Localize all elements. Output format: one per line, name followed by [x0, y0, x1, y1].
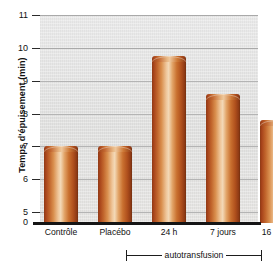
- bar-cap: [152, 56, 186, 62]
- y-tick-mark-5: [32, 212, 40, 213]
- bracket-label: autotransfusion: [162, 250, 227, 260]
- bar-cap: [44, 146, 78, 152]
- bar-chart-figure: Temps d'épuisement (min) 11 10 9 8 7 6 5…: [0, 0, 273, 267]
- bar-24h: [152, 56, 186, 223]
- y-tick-mark-8: [32, 114, 40, 115]
- gridline-11: [40, 15, 258, 16]
- autotransfusion-bracket: autotransfusion: [126, 250, 262, 262]
- y-tick-mark-9: [32, 81, 40, 82]
- gridline-9: [40, 81, 258, 82]
- bar-placebo: [98, 146, 132, 223]
- y-tick-label-9: 9: [0, 77, 28, 86]
- gridline-10: [40, 48, 258, 49]
- y-tick-mark-11: [32, 15, 40, 16]
- x-tick-label-16-sem: 16 sem.: [242, 228, 273, 237]
- bar-7-jours: [206, 94, 240, 223]
- bracket-label-wrap: autotransfusion: [126, 250, 262, 261]
- bar-cap: [260, 120, 273, 126]
- y-tick-mark-7: [32, 146, 40, 147]
- y-tick-label-6: 6: [0, 175, 28, 184]
- bar-cap: [98, 146, 132, 152]
- y-tick-mark-10: [32, 48, 40, 49]
- y-tick-mark-6: [32, 179, 40, 180]
- y-tick-label-8: 8: [0, 110, 28, 119]
- bar-controle: [44, 146, 78, 223]
- y-tick-label-11: 11: [0, 11, 28, 20]
- y-tick-label-0: 0: [0, 218, 28, 227]
- y-tick-label-5: 5: [0, 208, 28, 217]
- y-tick-label-7: 7: [0, 142, 28, 151]
- bar-cap: [206, 94, 240, 100]
- bar-16-sem: [260, 120, 273, 223]
- y-tick-label-10: 10: [0, 44, 28, 53]
- x-axis-baseline: [33, 222, 261, 225]
